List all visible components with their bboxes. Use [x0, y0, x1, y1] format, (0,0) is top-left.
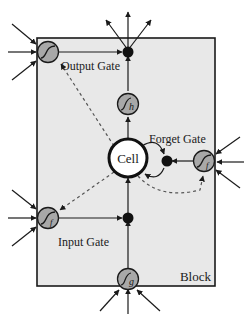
input-gate-inputs [8, 190, 36, 246]
forget-gate: f [194, 151, 215, 172]
svg-text:g: g [129, 276, 134, 287]
output-gate-inputs [8, 24, 36, 80]
input-multiplier-node [123, 213, 134, 224]
output-squash-node: h [118, 94, 139, 115]
input-gate-label: Input Gate [58, 235, 109, 249]
forget-gate-inputs [216, 137, 244, 188]
input-gate: f [38, 208, 59, 229]
svg-text:h: h [129, 101, 134, 112]
output-gate-label: Output Gate [61, 59, 120, 73]
cell-input-connections [100, 289, 160, 314]
input-squash-node: g [118, 269, 139, 290]
lstm-block-diagram: Block [0, 0, 250, 327]
cell-label: Cell [117, 151, 139, 166]
output-gate [38, 42, 59, 63]
memory-cell: Cell [109, 139, 147, 177]
forget-multiplier-node [162, 156, 173, 167]
output-multiplier-node [123, 47, 134, 58]
block-label: Block [180, 269, 212, 284]
forget-gate-label: Forget Gate [149, 132, 206, 146]
